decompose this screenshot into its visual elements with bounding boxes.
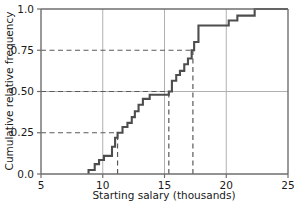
x-axis-title: Starting salary (thousands) <box>92 189 235 201</box>
x-tick-label: 5 <box>38 179 45 191</box>
cumulative-relative-frequency-chart: 510152025 0.00.250.500.751.0 Starting sa… <box>0 0 296 203</box>
y-tick-label: 1.0 <box>17 3 34 15</box>
chart-page: 510152025 0.00.250.500.751.0 Starting sa… <box>0 0 296 203</box>
x-tick-label: 25 <box>281 179 294 191</box>
y-axis-title: Cumulative relative frequency <box>3 12 15 171</box>
y-tick-label: 0.0 <box>17 168 34 180</box>
